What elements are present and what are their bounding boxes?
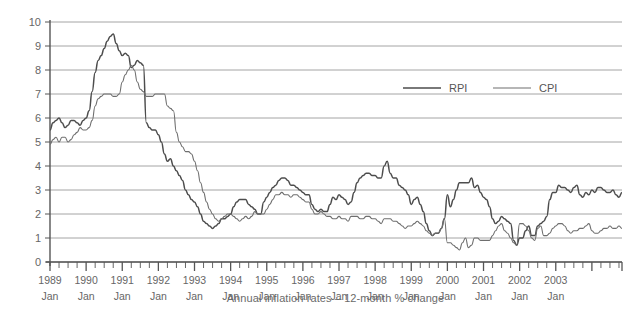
- chart-legend: RPICPI: [403, 82, 557, 94]
- chart-caption: Annual inflation rates – 12-month % chan…: [0, 292, 643, 304]
- x-tick-year: 2003: [544, 274, 568, 286]
- x-tick-year: 1990: [74, 274, 98, 286]
- x-tick-year: 1989: [38, 274, 62, 286]
- y-tick-label: 7: [35, 88, 41, 100]
- y-tick-label: 3: [35, 184, 41, 196]
- legend-label-rpi: RPI: [449, 82, 467, 94]
- inflation-chart-figure: 012345678910 1989Jan1990Jan1991Jan1992Ja…: [0, 0, 643, 317]
- y-tick-label: 8: [35, 64, 41, 76]
- y-tick-label: 0: [35, 256, 41, 268]
- y-tick-label: 2: [35, 208, 41, 220]
- y-tick-label: 6: [35, 112, 41, 124]
- chart-caption-text: Annual inflation rates – 12-month % chan…: [199, 292, 445, 304]
- x-tick-year: 1991: [111, 274, 135, 286]
- x-tick-year: 1995: [255, 274, 279, 286]
- series-line-cpi: [50, 65, 622, 250]
- x-tick-year: 2002: [508, 274, 532, 286]
- y-tick-label: 10: [29, 16, 41, 28]
- legend-label-cpi: CPI: [539, 82, 557, 94]
- x-tick-year: 1994: [219, 274, 243, 286]
- x-tick-year: 2000: [436, 274, 460, 286]
- x-tick-year: 1993: [183, 274, 207, 286]
- y-tick-label: 4: [35, 160, 41, 172]
- y-tick-label: 9: [35, 40, 41, 52]
- x-tick-year: 1992: [147, 274, 171, 286]
- gridlines-group: [50, 22, 622, 262]
- x-axis-ticks: [50, 262, 622, 271]
- x-tick-year: 2001: [472, 274, 496, 286]
- x-tick-year: 1999: [400, 274, 424, 286]
- series-line-rpi: [50, 34, 622, 245]
- chart-canvas: 012345678910 1989Jan1990Jan1991Jan1992Ja…: [0, 0, 643, 317]
- y-axis-tick-labels: 012345678910: [29, 16, 50, 268]
- x-tick-year: 1998: [363, 274, 387, 286]
- y-tick-label: 5: [35, 136, 41, 148]
- x-tick-year: 1996: [291, 274, 315, 286]
- y-tick-label: 1: [35, 232, 41, 244]
- x-tick-year: 1997: [327, 274, 351, 286]
